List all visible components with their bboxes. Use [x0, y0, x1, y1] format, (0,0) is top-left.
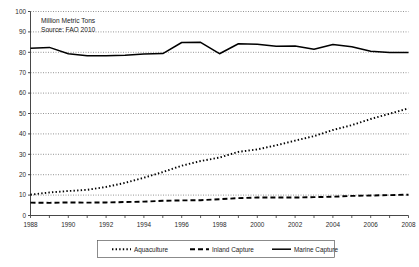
y-tick-label-80: 80: [19, 49, 27, 56]
fisheries-production-line-chart: 0102030405060708090100 19881990199219941…: [0, 0, 419, 267]
x-tick-label-2004: 2004: [326, 221, 341, 228]
y-tick-label-0: 0: [22, 212, 26, 219]
chart-legend: AquacultureInland CaptureMarine Capture: [98, 241, 339, 258]
legend-label-inland-capture: Inland Capture: [212, 246, 254, 254]
source-note: Source: FAO 2010: [41, 26, 96, 33]
x-tick-label-2000: 2000: [250, 221, 265, 228]
y-tick-label-70: 70: [19, 69, 27, 76]
x-tick-label-2006: 2006: [364, 221, 379, 228]
x-tick-label-1990: 1990: [61, 221, 76, 228]
x-tick-label-1998: 1998: [212, 221, 227, 228]
y-tick-label-30: 30: [19, 151, 27, 158]
y-tick-label-50: 50: [19, 110, 27, 117]
y-tick-label-100: 100: [15, 8, 26, 15]
x-tick-label-1988: 1988: [23, 221, 38, 228]
y-tick-label-60: 60: [19, 89, 27, 96]
x-axis-ticks: [31, 216, 409, 219]
units-note: Million Metric Tons: [41, 17, 96, 24]
y-tick-label-10: 10: [19, 191, 27, 198]
y-tick-label-90: 90: [19, 28, 27, 35]
chart-container: 0102030405060708090100 19881990199219941…: [0, 0, 419, 267]
x-tick-label-2002: 2002: [288, 221, 303, 228]
legend-label-marine-capture: Marine Capture: [294, 246, 338, 254]
legend-label-aquaculture: Aquaculture: [134, 246, 169, 254]
x-tick-label-1996: 1996: [175, 221, 190, 228]
y-tick-label-20: 20: [19, 171, 27, 178]
x-tick-label-1992: 1992: [99, 221, 114, 228]
y-tick-label-40: 40: [19, 130, 27, 137]
x-tick-label-1994: 1994: [137, 221, 152, 228]
x-tick-label-2008: 2008: [401, 221, 416, 228]
